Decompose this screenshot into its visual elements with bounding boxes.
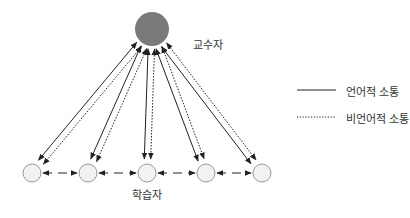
verbal-arrow-5 xyxy=(162,47,251,164)
student-node-4 xyxy=(197,164,215,182)
verbal-arrow-2 xyxy=(91,46,141,159)
verbal-arrow-1 xyxy=(39,42,137,160)
students-label: 학습자 xyxy=(132,186,162,202)
teacher-label: 교수자 xyxy=(193,36,223,52)
student-node-2 xyxy=(79,164,97,182)
legend-verbal-label: 언어적 소통 xyxy=(346,83,400,99)
legend-nonverbal-label: 비언어적 소통 xyxy=(346,110,410,126)
teacher-node xyxy=(135,12,169,46)
nonverbal-arrow-5 xyxy=(167,43,256,160)
communication-arrows xyxy=(39,42,257,164)
nonverbal-arrow-4 xyxy=(162,47,204,159)
verbal-arrow-4 xyxy=(156,49,198,161)
nonverbal-arrow-1 xyxy=(43,46,141,164)
nonverbal-arrow-2 xyxy=(97,49,147,162)
student-node-1 xyxy=(23,164,41,182)
nonverbal-arrow-3 xyxy=(151,49,155,159)
verbal-arrow-3 xyxy=(144,49,148,159)
student-node-5 xyxy=(253,164,271,182)
student-node-3 xyxy=(138,164,156,182)
